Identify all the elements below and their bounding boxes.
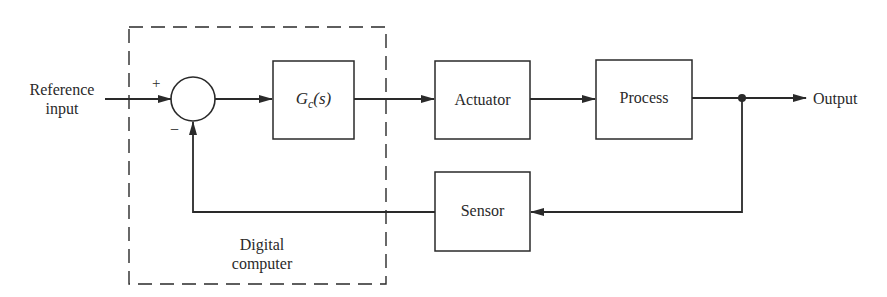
actuator-label: Actuator [435,90,530,109]
output-label: Output [813,89,857,108]
digital-computer-label-line1: Digital [222,235,302,254]
controller-label: Gc(s) [273,89,354,114]
reference-input-label-line1: Reference [18,80,106,99]
block-diagram-canvas [0,0,887,297]
minus-sign: − [170,120,179,139]
reference-input-label: Reference input [18,80,106,118]
sensor-label: Sensor [435,201,530,220]
controller-arg: (s) [313,89,331,108]
summing-junction [171,77,215,121]
digital-computer-label: Digital computer [222,235,302,273]
process-label: Process [596,88,692,107]
reference-input-label-line2: input [18,99,106,118]
controller-symbol: G [296,89,308,108]
plus-sign: + [152,74,160,93]
digital-computer-label-line2: computer [222,254,302,273]
